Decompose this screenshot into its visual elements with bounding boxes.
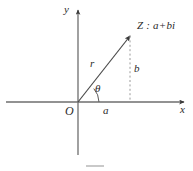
angle-theta-label: θ	[95, 83, 100, 94]
radius-vector	[78, 36, 130, 102]
real-part-label: a	[103, 105, 109, 116]
origin-label: O	[65, 105, 74, 117]
imaginary-part-label: b	[134, 63, 140, 74]
complex-plane-figure: y x O r θ a b Z : a+bi	[0, 0, 193, 171]
y-axis-label: y	[64, 4, 69, 15]
radius-label: r	[90, 58, 94, 69]
caption-rule	[86, 165, 104, 167]
point-z-label: Z : a+bi	[137, 20, 175, 31]
x-axis-label: x	[180, 104, 185, 115]
